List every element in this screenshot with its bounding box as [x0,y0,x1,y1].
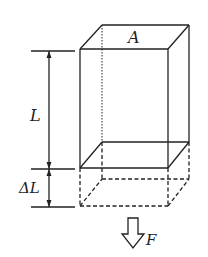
force-arrow-icon [122,218,144,248]
area-label: A [126,28,140,47]
elongation-label: ΔL [18,179,40,197]
length-label: L [29,106,41,125]
original-bottom-face [80,142,189,168]
prism-diagram: A L ΔL F [0,0,208,257]
force-label: F [145,231,157,249]
elongated-section [80,142,189,206]
